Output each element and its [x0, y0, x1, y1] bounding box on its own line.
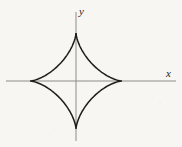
plot-canvas	[0, 0, 182, 147]
plot-background	[0, 0, 182, 147]
x-axis-label: x	[166, 68, 171, 79]
y-axis-label: y	[79, 6, 84, 17]
astroid-figure: y x	[0, 0, 182, 147]
